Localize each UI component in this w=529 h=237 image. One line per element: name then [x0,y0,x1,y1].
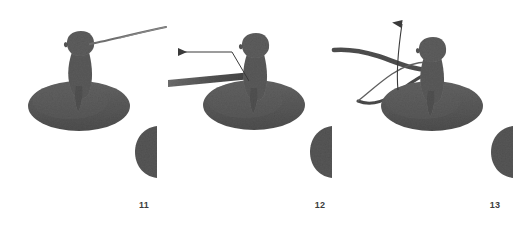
panel-caption-12: 12 [300,200,340,210]
figure-container: 11 12 13 [0,0,529,237]
panel-caption-13: 13 [475,200,515,210]
figure-illustration [0,0,529,237]
panel-caption-11: 11 [124,200,164,210]
